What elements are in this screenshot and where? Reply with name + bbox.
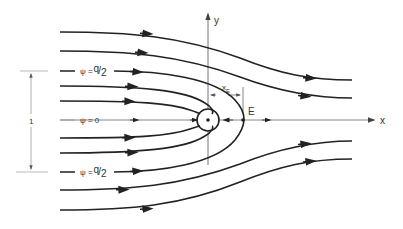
x-axis-label: x — [380, 115, 385, 126]
y-axis-label: y — [214, 15, 219, 26]
flow-diagram: 1 x y E xE — [0, 0, 403, 229]
dimension-label: 1 — [29, 117, 34, 126]
psi-bottom-label: ψ =q/2 — [80, 164, 107, 179]
source-body — [197, 109, 219, 131]
stagnation-label: E — [248, 106, 255, 117]
psi-top-label: ψ =q/2 — [80, 63, 107, 78]
dimension-marker: 1 — [16, 71, 48, 172]
psi-center-label: ψ = 0 — [80, 116, 100, 125]
